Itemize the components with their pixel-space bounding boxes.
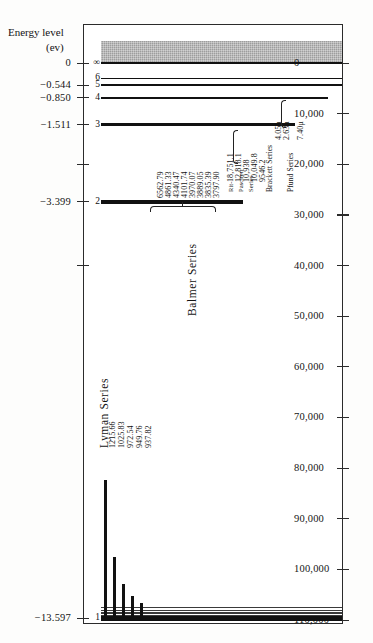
left-axis-tick-label: −0.544 [40, 80, 71, 91]
transition-line [104, 480, 107, 619]
right-axis-tick [337, 366, 349, 367]
wavelength-label: 937.82 [145, 425, 153, 448]
right-axis-tick-label: 70,000 [294, 412, 324, 423]
right-axis-tick-label: 100,000 [294, 564, 330, 575]
right-axis-tick [337, 265, 349, 266]
wavelength-label: 7.40μ [297, 121, 305, 140]
level-line-n-4 [101, 97, 328, 99]
left-axis-tick-label: −3.399 [40, 197, 71, 208]
energy-level-diagram: Energy level (ev) Wave number (cm⁻¹) n 0… [0, 0, 373, 643]
transition-line [122, 584, 125, 619]
balmer-brace [150, 206, 216, 212]
right-axis-tick-label: 50,000 [294, 311, 324, 322]
left-axis-unit: (ev) [46, 41, 64, 54]
level-line-n-2 [101, 200, 243, 203]
brackett-brace [281, 100, 286, 128]
right-axis-tick-label: 60,000 [294, 362, 324, 373]
level-line-crowded [101, 613, 342, 614]
series-title-lyman: Lyman Series [100, 378, 108, 448]
level-number-3: 3 [88, 120, 100, 130]
transition-line [140, 603, 143, 618]
right-axis-tick [337, 468, 349, 469]
left-axis-tick-label: −13.597 [35, 613, 71, 624]
level-number-2: 2 [88, 197, 100, 207]
series-title-ritz: Rit- [228, 181, 235, 192]
series-title-paschen-series: Series [248, 176, 255, 193]
level-number-1: 1 [88, 613, 100, 623]
right-axis-tick [337, 164, 349, 165]
series-title-brackett: Brackett Series [266, 145, 274, 192]
level-line-crowded [101, 610, 342, 611]
right-axis-tick-label: 80,000 [294, 463, 324, 474]
right-axis-tick-label: 10,000 [294, 109, 324, 120]
right-axis-tick [337, 113, 349, 114]
series-title-balmer: Balmer Series [188, 243, 196, 316]
wavelength-label: 1025.83 [118, 421, 126, 448]
wavelength-label: 3797.90 [213, 171, 221, 198]
right-axis-tick [337, 518, 349, 519]
level-number-∞: ∞ [88, 58, 100, 68]
level-number-5: 5 [88, 80, 100, 90]
balmer-brace-nub [182, 202, 183, 206]
level-number-4: 4 [88, 93, 100, 103]
right-axis-tick-label: 30,000 [294, 210, 324, 221]
level-line-crowded [101, 607, 342, 608]
right-axis-tick [337, 569, 349, 570]
right-axis-tick [337, 214, 349, 215]
right-axis-tick-label: 40,000 [294, 261, 324, 272]
left-axis-minor-tick [77, 265, 89, 266]
continuum-band [101, 41, 342, 63]
level-line-n-3 [101, 123, 295, 126]
right-axis-tick [337, 316, 349, 317]
paschen-brace [233, 130, 238, 164]
level-line-n-1 [101, 616, 342, 621]
level-line-n-6 [101, 78, 342, 80]
level-line-n-∞ [101, 62, 342, 64]
left-axis-title: Energy level [8, 26, 64, 39]
left-axis-tick-label: −1.511 [41, 120, 71, 131]
left-axis-tick-label: −0.850 [40, 93, 71, 104]
left-axis-minor-tick [77, 164, 89, 165]
right-axis-tick-label: 20,000 [294, 159, 324, 170]
right-axis-tick [337, 417, 349, 418]
level-line-n-5 [101, 84, 342, 86]
transition-line [113, 557, 116, 619]
left-axis [83, 24, 84, 624]
transition-line [131, 596, 134, 618]
series-title-paschen: Paschen [238, 170, 245, 192]
wavelength-label: 972.54 [127, 425, 135, 448]
right-axis-tick-label: 90,000 [294, 514, 324, 525]
wavelength-label: 949.76 [136, 425, 144, 448]
series-title-pfund: Pfund Series [287, 153, 295, 192]
left-axis-tick-label: 0 [66, 58, 71, 69]
